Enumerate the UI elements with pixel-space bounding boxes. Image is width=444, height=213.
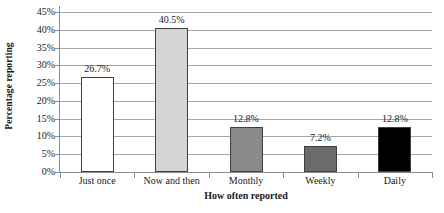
x-tick-label: Now and then [144,174,200,187]
gridline [60,48,432,49]
y-tick-mark [55,30,60,31]
plot-area: 26.7%40.5%12.8%7.2%12.8% [60,12,432,172]
gridline [60,65,432,66]
y-tick-label: 40% [37,25,55,35]
bar-value-label: 26.7% [84,63,110,74]
bar-value-label: 12.8% [233,113,259,124]
y-tick-label: 45% [37,7,55,17]
y-axis-line [59,6,60,172]
bar-value-label: 40.5% [159,14,185,25]
y-tick-mark [55,119,60,120]
bar-value-label: 7.2% [310,132,331,143]
bar [155,28,188,172]
bar [230,127,263,173]
y-tick-label: 35% [37,43,55,53]
x-tick-label: Daily [384,174,406,187]
gridline [60,83,432,84]
y-axis-tick-labels: 0%5%10%15%20%25%30%35%40%45% [18,0,58,180]
gridline [60,30,432,31]
y-tick-label: 5% [42,149,55,159]
x-tick-label: Monthly [229,174,263,187]
bar-chart: Percentage reporting 0%5%10%15%20%25%30%… [0,0,444,213]
gridline [60,101,432,102]
y-tick-label: 10% [37,131,55,141]
y-tick-label: 25% [37,78,55,88]
bar [304,146,337,172]
y-tick-label: 30% [37,60,55,70]
x-axis-tick-labels: Just onceNow and thenMonthlyWeeklyDaily [60,174,432,190]
x-tick-label: Weekly [305,174,335,187]
y-tick-mark [55,154,60,155]
y-tick-label: 15% [37,114,55,124]
bar [378,127,411,173]
x-axis-line [59,172,433,173]
y-tick-label: 20% [37,96,55,106]
y-tick-mark [55,101,60,102]
y-tick-mark [55,136,60,137]
x-axis-title: How often reported [60,190,432,201]
y-axis-title: Percentage reporting [0,0,18,172]
y-axis-title-text: Percentage reporting [4,42,14,129]
y-tick-label: 0% [42,167,55,177]
bar [81,77,114,172]
y-tick-mark [55,65,60,66]
gridline [60,12,432,13]
x-tick-label: Just once [79,174,116,187]
y-tick-mark [55,48,60,49]
y-tick-mark [55,83,60,84]
y-tick-mark [55,12,60,13]
bar-value-label: 12.8% [382,113,408,124]
x-tick-mark [432,172,433,178]
